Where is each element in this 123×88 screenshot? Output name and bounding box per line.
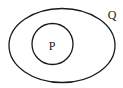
set-q-ellipse — [9, 9, 115, 83]
euler-diagram: P Q — [0, 0, 123, 88]
set-q-label: Q — [108, 8, 117, 22]
set-p-label: P — [49, 39, 56, 53]
